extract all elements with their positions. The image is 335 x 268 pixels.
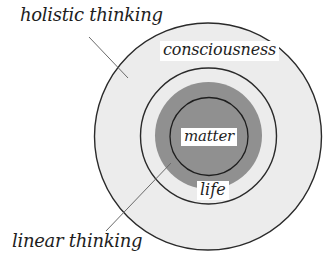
life-label: life — [197, 181, 229, 200]
linear-thinking-label: linear thinking — [12, 232, 142, 250]
matter-label: matter — [181, 128, 237, 146]
consciousness-label: consciousness — [160, 41, 279, 61]
holistic-thinking-label: holistic thinking — [20, 6, 163, 24]
holistic-leader-line — [89, 37, 128, 78]
